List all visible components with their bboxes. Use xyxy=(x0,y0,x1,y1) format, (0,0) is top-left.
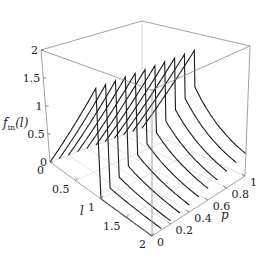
grid-line-l xyxy=(76,140,168,181)
box-edge xyxy=(152,46,250,90)
y-tick-label: 0 xyxy=(157,236,164,249)
curve-series xyxy=(114,62,217,180)
y-tick xyxy=(186,210,189,212)
x-tick-label: 1.5 xyxy=(103,220,121,233)
y-axis-label: p xyxy=(221,208,229,222)
x-tick-label: 0 xyxy=(37,164,44,177)
chart-3d: 00.511.5200.511.5200.20.40.60.81 fin(l) … xyxy=(0,0,258,256)
y-tick-label: 0.2 xyxy=(176,224,194,237)
plot-area: 00.511.5200.511.5200.20.40.60.81 xyxy=(0,0,258,256)
z-label-sub: in xyxy=(7,123,15,132)
box-edge xyxy=(41,21,142,50)
z-tick-label: 1.5 xyxy=(23,72,41,85)
y-tick-label: 1 xyxy=(250,176,257,189)
z-tick-label: 1 xyxy=(36,100,43,113)
y-tick xyxy=(168,222,171,224)
y-tick-label: 0.4 xyxy=(194,212,212,225)
box-edge xyxy=(245,46,250,176)
y-tick-label: 0.8 xyxy=(231,188,249,201)
grid-line-l xyxy=(127,164,220,218)
x-tick-label: 1 xyxy=(88,201,95,214)
x-tick-label: 0.5 xyxy=(52,183,70,196)
box-edge xyxy=(142,21,250,46)
z-axis-label: fin(l) xyxy=(3,116,28,132)
z-tick-label: 2 xyxy=(31,44,38,57)
x-tick-label: 2 xyxy=(139,238,146,251)
curve-series xyxy=(124,58,227,171)
z-tick-label: 0.5 xyxy=(27,128,45,141)
bounding-box-back xyxy=(50,21,245,176)
y-tick xyxy=(205,198,208,200)
box-edge xyxy=(41,50,152,90)
x-axis-label: l xyxy=(80,204,84,218)
z-label-arg: (l) xyxy=(15,116,28,130)
